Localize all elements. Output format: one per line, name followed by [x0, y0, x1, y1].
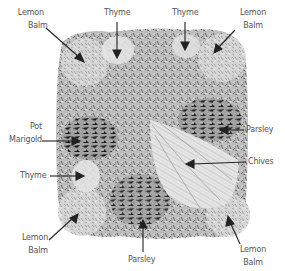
- label-lemon-balm-bottom-left: Lemon Balm: [22, 231, 48, 257]
- label-thyme-top-center: Thyme: [104, 6, 130, 19]
- label-chives-right: Chives: [248, 155, 274, 168]
- lemon-balm-bottom-left-plant: [58, 188, 106, 236]
- pot-marigold-plant: [62, 116, 118, 160]
- label-lemon-balm-bottom-right: Lemon Balm: [240, 243, 266, 269]
- label-lemon-balm-top-right: Lemon Balm: [240, 6, 266, 32]
- lemon-balm-top-left-plant: [61, 38, 109, 86]
- label-lemon-balm-top-left: Lemon Balm: [14, 6, 48, 32]
- label-pot-marigold: Pot Marigold: [4, 120, 42, 146]
- label-parsley-bottom: Parsley: [128, 253, 155, 266]
- label-thyme-left: Thyme: [20, 169, 46, 182]
- herb-garden-diagram: Lemon Balm Thyme Thyme Lemon Balm Pot Ma…: [0, 0, 285, 271]
- lemon-balm-top-right-plant: [198, 34, 246, 82]
- label-parsley-right: Parsley: [246, 123, 273, 136]
- label-thyme-top-right: Thyme: [172, 6, 198, 19]
